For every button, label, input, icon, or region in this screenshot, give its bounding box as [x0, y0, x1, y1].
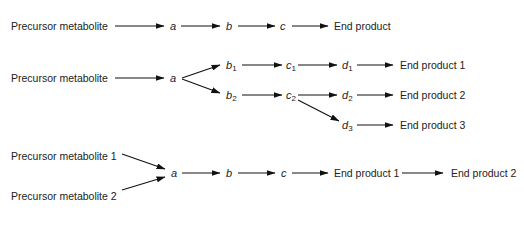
- node-d1: d1: [342, 59, 353, 71]
- node-a: a: [171, 167, 177, 179]
- node-subscript: 1: [348, 64, 352, 73]
- end-product-label: End product: [334, 20, 391, 32]
- node-subscript: 1: [292, 64, 296, 73]
- node-subscript: 2: [292, 94, 296, 103]
- end-product-1-label: End product 1: [400, 59, 465, 71]
- node-b1: b1: [226, 59, 237, 71]
- precursor-label: Precursor metabolite: [11, 72, 108, 84]
- end-product-1-label: End product 1: [334, 167, 399, 179]
- node-b: b: [226, 20, 232, 32]
- arrow-precursor2-to-a: [122, 177, 165, 190]
- node-c: c: [281, 167, 287, 179]
- node-subscript: 1: [232, 64, 236, 73]
- node-c1: c1: [286, 59, 296, 71]
- end-product-2-label: End product 2: [400, 89, 465, 101]
- end-product-3-label: End product 3: [400, 119, 465, 131]
- node-a: a: [170, 20, 176, 32]
- node-subscript: 2: [348, 94, 352, 103]
- end-product-2-label: End product 2: [451, 167, 516, 179]
- node-c: c: [280, 20, 286, 32]
- node-a: a: [170, 72, 176, 84]
- node-subscript: 3: [348, 124, 352, 133]
- node-b2: b2: [226, 89, 237, 101]
- node-b: b: [226, 167, 232, 179]
- precursor-label: Precursor metabolite: [11, 20, 108, 32]
- node-d3: d3: [342, 119, 353, 131]
- node-d2: d2: [342, 89, 353, 101]
- arrow-precursor1-to-a: [122, 154, 165, 169]
- arrow-c2-to-d3: [298, 100, 339, 121]
- node-c2: c2: [286, 89, 296, 101]
- node-subscript: 2: [232, 94, 236, 103]
- precursor-1-label: Precursor metabolite 1: [11, 150, 117, 162]
- precursor-2-label: Precursor metabolite 2: [11, 190, 117, 202]
- arrow-a-to-b2: [182, 79, 220, 93]
- arrow-a-to-b1: [182, 65, 220, 78]
